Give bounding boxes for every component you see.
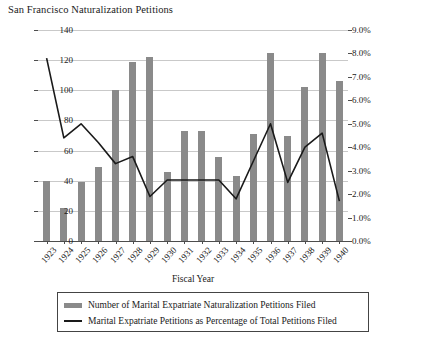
y-axis-tick-mark [34, 90, 38, 91]
y2-axis-tick-label: 6.0% [352, 95, 394, 105]
x-axis-tick-mark [64, 241, 65, 244]
x-axis-tick-mark [150, 241, 151, 244]
x-axis-tick-mark [184, 241, 185, 244]
x-axis-tick-mark [202, 241, 203, 244]
y-axis-tick-label: 60 [33, 146, 73, 156]
y2-axis-tick-mark [348, 53, 352, 54]
y-axis-tick-mark [34, 241, 38, 242]
y-axis-tick-label: 100 [33, 85, 73, 95]
legend-item-label: Number of Marital Expatriate Naturalizat… [88, 300, 315, 310]
y-axis-tick-label: 40 [33, 176, 73, 186]
y2-axis-tick-mark [348, 171, 352, 172]
y2-axis-tick-label: 0.0% [352, 236, 394, 246]
y-axis-tick-mark [34, 60, 38, 61]
y2-axis-tick-label: 1.0% [352, 213, 394, 223]
y-axis-tick-mark [34, 120, 38, 121]
gridline [38, 241, 348, 242]
y-axis-tick-label: 80 [33, 115, 73, 125]
bar-swatch-icon [64, 303, 82, 308]
x-axis-tick-mark [219, 241, 220, 244]
legend-item-label: Marital Expatriate Petitions as Percenta… [88, 316, 337, 326]
x-axis-tick-mark [81, 241, 82, 244]
x-axis-tick-mark [288, 241, 289, 244]
line-series [38, 30, 348, 241]
legend: Number of Marital Expatriate Naturalizat… [57, 292, 369, 332]
y2-axis-tick-label: 2.0% [352, 189, 394, 199]
x-axis-tick-mark [47, 241, 48, 244]
percentage-line [47, 58, 340, 201]
line-swatch-icon [64, 320, 82, 322]
x-axis-tick-mark [271, 241, 272, 244]
x-axis-tick-mark [305, 241, 306, 244]
y-axis-right-title-wrap: Marital Expatriate Petitions as Percenta… [392, 18, 425, 34]
y-axis-tick-label: 20 [33, 206, 73, 216]
y2-axis-tick-mark [348, 100, 352, 101]
x-axis-tick-mark [322, 241, 323, 244]
x-axis-tick-mark [167, 241, 168, 244]
x-axis-tick-mark [236, 241, 237, 244]
plot-area [38, 30, 348, 241]
y2-axis-tick-mark [348, 194, 352, 195]
y2-axis-tick-label: 9.0% [352, 25, 394, 35]
y-axis-tick-mark [34, 30, 38, 31]
y-axis-tick-label: 120 [33, 55, 73, 65]
y2-axis-tick-label: 7.0% [352, 72, 394, 82]
chart-title: San Francisco Naturalization Petitions [8, 4, 173, 15]
y2-axis-tick-label: 5.0% [352, 119, 394, 129]
y2-axis-tick-mark [348, 30, 352, 31]
y-axis-tick-label: 140 [33, 25, 73, 35]
x-axis-tick-mark [116, 241, 117, 244]
x-axis-tick-mark [133, 241, 134, 244]
y-axis-tick-mark [34, 151, 38, 152]
legend-item[interactable]: Number of Marital Expatriate Naturalizat… [64, 297, 362, 313]
y2-axis-tick-label: 8.0% [352, 48, 394, 58]
y2-axis-tick-mark [348, 218, 352, 219]
y2-axis-tick-mark [348, 241, 352, 242]
x-axis-tick-mark [339, 241, 340, 244]
x-axis-title: Fiscal Year [38, 274, 348, 284]
y-axis-tick-mark [34, 181, 38, 182]
x-axis-tick-mark [253, 241, 254, 244]
y2-axis-tick-label: 4.0% [352, 142, 394, 152]
legend-item[interactable]: Marital Expatriate Petitions as Percenta… [64, 313, 362, 329]
y2-axis-tick-mark [348, 147, 352, 148]
y2-axis-tick-label: 3.0% [352, 166, 394, 176]
chart-container: San Francisco Naturalization Petitions 0… [0, 0, 425, 338]
y2-axis-tick-mark [348, 77, 352, 78]
y2-axis-tick-mark [348, 124, 352, 125]
y-axis-tick-mark [34, 211, 38, 212]
x-axis-tick-mark [98, 241, 99, 244]
